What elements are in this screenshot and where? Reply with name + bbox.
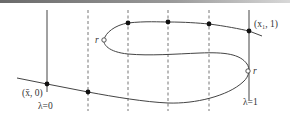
turning-point-left-label: r xyxy=(95,35,99,45)
filled-points xyxy=(45,20,252,95)
lambda-one-label: λ=1 xyxy=(243,97,258,107)
turning-point-left-marker xyxy=(102,38,106,42)
dashed-grid-lines xyxy=(88,10,209,111)
homotopy-diagram: r r (x̄, 0) (x₁, 1) λ=0 λ=1 xyxy=(0,0,290,119)
turning-point-right-marker xyxy=(246,69,250,73)
path-point-dot xyxy=(207,22,212,27)
start-point-dot xyxy=(45,82,50,87)
start-point-label: (x̄, 0) xyxy=(22,88,43,99)
path-point-dot xyxy=(86,90,91,95)
end-point-label: (x₁, 1) xyxy=(254,19,278,30)
path-point-dot xyxy=(126,21,131,26)
lambda-zero-label: λ=0 xyxy=(38,101,53,111)
end-point-dot xyxy=(247,29,252,34)
turning-point-right-label: r xyxy=(253,66,257,76)
solution-path-curve xyxy=(17,22,262,103)
path-point-dot xyxy=(166,20,171,25)
